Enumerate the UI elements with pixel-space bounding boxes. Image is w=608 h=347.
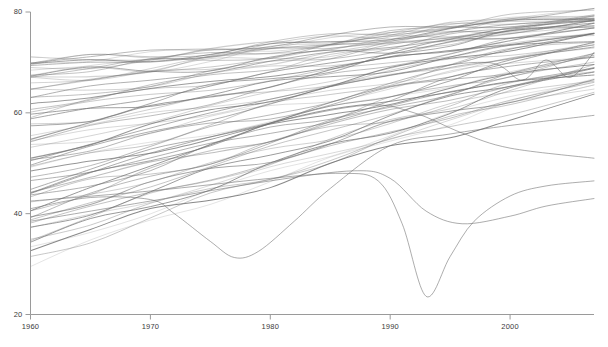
y-tick-label: 40 — [0, 209, 23, 218]
outlier-series-layer — [31, 52, 595, 297]
y-tick-label: 80 — [0, 7, 23, 16]
x-tick-label: 1990 — [370, 322, 410, 331]
series-line — [31, 65, 595, 171]
x-tick-label: 2000 — [490, 322, 530, 331]
y-tick-label: 60 — [0, 108, 23, 117]
y-tick-label: 20 — [0, 310, 23, 319]
line-chart-plot — [0, 0, 608, 347]
chart-container: 20406080 19601970198019902000 — [0, 0, 608, 347]
outlier-series-line — [31, 173, 595, 297]
x-tick-label: 1970 — [130, 322, 170, 331]
x-tick-marks — [31, 315, 511, 320]
outlier-series-line — [31, 105, 595, 194]
x-tick-label: 1960 — [11, 322, 51, 331]
x-tick-label: 1980 — [250, 322, 290, 331]
series-line — [31, 19, 595, 63]
y-tick-marks — [26, 12, 31, 315]
